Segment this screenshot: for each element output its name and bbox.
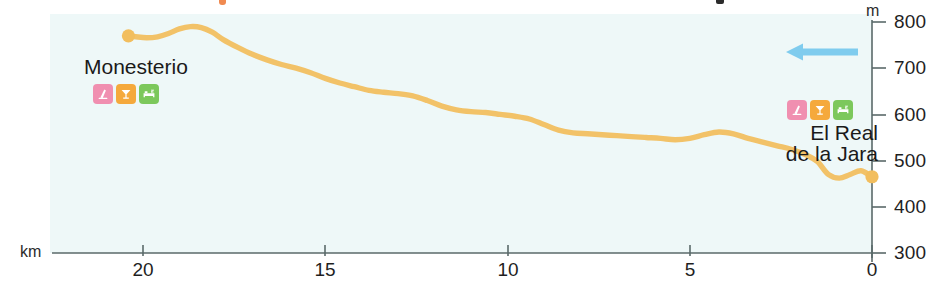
- y-tick-label-500: 500: [894, 150, 926, 172]
- x-tick-label-10: 10: [497, 259, 518, 281]
- x-tick-marks: [143, 245, 872, 258]
- start-point-marker-monesterio: [122, 29, 135, 42]
- place-label-el-real-de-la-jara: El Real de la Jara: [786, 122, 878, 165]
- cocktail-icon[interactable]: [116, 84, 136, 104]
- y-tick-label-300: 300: [894, 242, 926, 264]
- x-tick-label-20: 20: [132, 259, 153, 281]
- bed-icon[interactable]: [139, 84, 159, 104]
- end-point-marker-el-real-de-la-jara: [865, 170, 878, 183]
- amenity-icons-el-real-de-la-jara: [787, 100, 853, 120]
- monument-icon[interactable]: [93, 84, 113, 104]
- y-tick-label-400: 400: [894, 196, 926, 218]
- direction-of-travel-arrow: [786, 42, 858, 62]
- x-tick-label-5: 5: [685, 259, 696, 281]
- monument-icon[interactable]: [787, 100, 807, 120]
- place-label-line-2: de la Jara: [786, 143, 878, 164]
- y-tick-label-800: 800: [894, 11, 926, 33]
- y-tick-label-600: 600: [894, 104, 926, 126]
- place-label-line-1: El Real: [810, 121, 878, 144]
- y-axis-unit-label: m: [866, 2, 879, 20]
- amenity-icons-monesterio: [93, 84, 159, 104]
- x-tick-label-15: 15: [314, 259, 335, 281]
- place-label-monesterio: Monesterio: [84, 56, 188, 77]
- elevation-track-line: [128, 27, 872, 179]
- x-tick-label-0: 0: [867, 259, 878, 281]
- cocktail-icon[interactable]: [810, 100, 830, 120]
- bed-icon[interactable]: [833, 100, 853, 120]
- x-axis-unit-label: km: [20, 243, 41, 261]
- elevation-profile-figure: km m 800 700 600 500 400 300 20 15 10 5 …: [0, 0, 942, 304]
- y-tick-label-700: 700: [894, 57, 926, 79]
